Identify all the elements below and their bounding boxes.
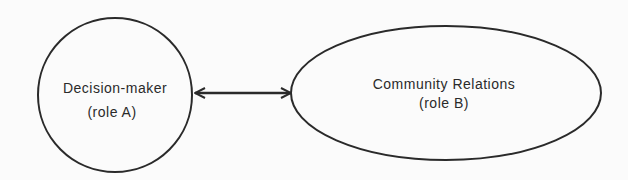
diagram-canvas: Decision-maker (role A) Community Relati… xyxy=(0,0,628,180)
ellipse-shape xyxy=(291,26,601,160)
node-community-relations: Community Relations (role B) xyxy=(291,26,601,160)
node-a-role: (role A) xyxy=(87,104,136,120)
node-b-title: Community Relations xyxy=(373,76,516,92)
node-a-title: Decision-maker xyxy=(63,80,167,96)
node-decision-maker: Decision-maker (role A) xyxy=(38,18,192,172)
node-b-role: (role B) xyxy=(419,95,469,111)
